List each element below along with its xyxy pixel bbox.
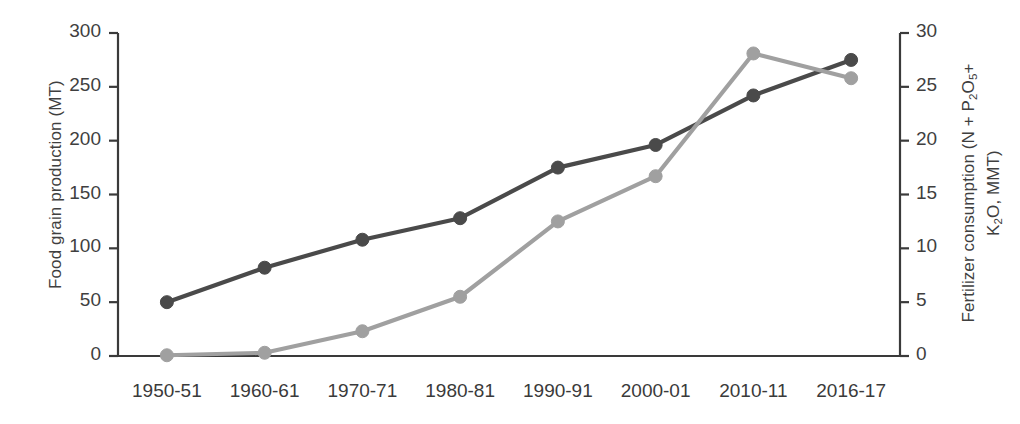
left-axis-tick-label: 300 [29,20,101,42]
data-point-marker [747,47,760,60]
left-axis-tick-label: 200 [29,128,101,150]
data-point-marker [356,233,369,246]
data-point-marker [551,161,564,174]
left-axis-tick-label: 0 [29,343,101,365]
left-axis-tick-label: 100 [29,235,101,257]
data-point-marker [454,290,467,303]
right-axis-tick-label: 15 [916,182,988,204]
data-point-marker [649,138,662,151]
data-point-marker [551,215,564,228]
data-point-marker [258,346,271,359]
right-axis-tick-label: 0 [916,343,988,365]
data-point-marker [845,72,858,85]
data-point-marker [747,89,760,102]
data-point-marker [258,261,271,274]
left-axis-tick-label: 150 [29,182,101,204]
left-axis-tick-label: 250 [29,74,101,96]
right-axis-tick-label: 5 [916,289,988,311]
x-axis-category-label: 2016-17 [791,380,911,402]
data-point-marker [454,212,467,225]
right-axis-tick-label: 20 [916,128,988,150]
data-point-marker [845,53,858,66]
data-point-marker [160,349,173,362]
data-point-marker [160,296,173,309]
data-point-marker [356,325,369,338]
left-axis-tick-label: 50 [29,289,101,311]
plot-area [0,0,1020,424]
right-axis-tick-label: 10 [916,235,988,257]
series-1-foodgrain [160,53,857,308]
line-chart: Food grain production (MT) Fertilizer co… [0,0,1020,424]
data-point-marker [649,170,662,183]
right-axis-tick-label: 25 [916,74,988,96]
right-axis-tick-label: 30 [916,20,988,42]
